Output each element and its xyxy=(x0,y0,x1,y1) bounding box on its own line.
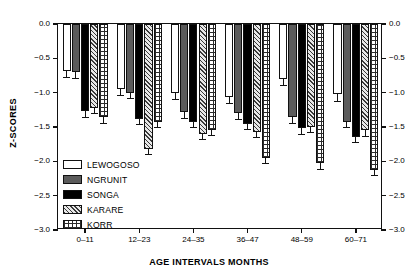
error-bar xyxy=(352,137,360,143)
error-bar xyxy=(343,122,351,128)
y-axis-tick-label: −1.5 xyxy=(34,122,50,131)
legend: LEWOGOSONGRUNITSONGAKARAREKORR xyxy=(63,157,140,232)
bar-karare xyxy=(307,24,315,127)
y-axis-tick-label: −0.5 xyxy=(34,53,50,62)
legend-item-karare: KARARE xyxy=(63,202,140,217)
y-axis-tick xyxy=(381,195,386,196)
x-axis-tick-label: 0–11 xyxy=(76,235,93,244)
error-bar xyxy=(262,158,270,164)
y-axis-tick xyxy=(53,58,58,59)
bar-lewogoso xyxy=(333,24,341,94)
error-bar xyxy=(81,111,89,118)
bar-songa xyxy=(135,24,143,119)
y-axis-tick-label: −2.5 xyxy=(34,191,50,200)
bar-ngrunit xyxy=(72,24,80,72)
bar-karare xyxy=(253,24,261,132)
y-axis-tick-label: −3.0 xyxy=(34,225,50,234)
error-bar xyxy=(189,122,197,128)
bar-korr xyxy=(208,24,216,130)
bar-ngrunit xyxy=(288,24,296,117)
bar-lewogoso xyxy=(225,24,233,97)
bar-lewogoso xyxy=(171,24,179,93)
bar-group xyxy=(329,24,383,228)
bar-songa xyxy=(81,24,89,111)
y-axis-tick-label: −0.5 xyxy=(389,53,405,62)
x-axis-tick xyxy=(355,228,356,233)
legend-label: KARARE xyxy=(87,205,124,215)
x-axis-tick-label: 48–59 xyxy=(291,235,313,244)
error-bar xyxy=(63,71,71,79)
error-bar xyxy=(361,130,369,136)
error-bar xyxy=(307,127,315,133)
y-axis-tick-label: −1.0 xyxy=(389,88,405,97)
error-bar xyxy=(279,79,287,86)
error-bar xyxy=(225,97,233,104)
bar-group xyxy=(221,24,275,228)
error-bar xyxy=(208,130,216,136)
y-axis-tick-label: 0.0 xyxy=(389,19,400,28)
y-axis-tick xyxy=(53,126,58,127)
bar-songa xyxy=(189,24,197,122)
legend-label: NGRUNIT xyxy=(87,175,128,185)
bar-korr xyxy=(370,24,378,170)
chart-figure: Z-SCORES 0.00.0−0.5−0.5−1.0−1.0−1.5−1.5−… xyxy=(0,0,418,280)
x-axis-tick-label: 24–35 xyxy=(182,235,204,244)
legend-swatch-ngrunit xyxy=(63,175,82,184)
legend-label: SONGA xyxy=(87,190,119,200)
bar-karare xyxy=(90,24,98,108)
bar-ngrunit xyxy=(343,24,351,122)
bar-karare xyxy=(199,24,207,134)
error-bar xyxy=(234,113,242,120)
legend-label: KORR xyxy=(87,220,113,230)
y-axis-tick-label: 0.0 xyxy=(39,19,50,28)
y-axis-tick xyxy=(381,23,386,24)
y-axis-tick xyxy=(381,161,386,162)
error-bar xyxy=(117,89,125,96)
error-bar xyxy=(288,117,296,124)
y-axis-tick xyxy=(381,58,386,59)
legend-item-songa: SONGA xyxy=(63,187,140,202)
bar-songa xyxy=(352,24,360,137)
x-axis-tick xyxy=(247,228,248,233)
bar-korr xyxy=(316,24,324,163)
bar-lewogoso xyxy=(279,24,287,79)
x-axis-tick-label: 36–47 xyxy=(236,235,258,244)
x-axis-tick-label: 60–71 xyxy=(345,235,367,244)
bar-korr xyxy=(262,24,270,158)
error-bar xyxy=(243,124,251,130)
error-bar xyxy=(316,163,324,169)
y-axis-title: Z-SCORES xyxy=(8,88,18,158)
x-axis-tick-label: 12–23 xyxy=(128,235,150,244)
bar-karare xyxy=(144,24,152,149)
legend-swatch-karare xyxy=(63,205,82,214)
error-bar xyxy=(180,112,188,119)
error-bar xyxy=(135,119,143,125)
y-axis-tick xyxy=(53,229,58,230)
y-axis-tick-label: −1.5 xyxy=(389,122,405,131)
y-axis-tick-label: −2.5 xyxy=(389,191,405,200)
bar-group xyxy=(275,24,329,228)
bar-songa xyxy=(298,24,306,128)
y-axis-tick xyxy=(53,23,58,24)
y-axis-tick xyxy=(381,92,386,93)
error-bar xyxy=(154,122,162,128)
y-axis-tick-label: −2.0 xyxy=(389,156,405,165)
error-bar xyxy=(253,132,261,138)
legend-swatch-korr xyxy=(63,220,82,229)
y-axis-tick-label: −1.0 xyxy=(34,88,50,97)
error-bar xyxy=(126,93,134,99)
legend-swatch-lewogoso xyxy=(63,160,82,169)
y-axis-tick xyxy=(53,195,58,196)
x-axis-tick xyxy=(301,228,302,233)
bar-karare xyxy=(361,24,369,130)
y-axis-tick xyxy=(381,126,386,127)
error-bar xyxy=(144,149,152,155)
bar-ngrunit xyxy=(234,24,242,113)
bar-korr xyxy=(99,24,107,117)
y-axis-tick xyxy=(381,229,386,230)
bar-lewogoso xyxy=(63,24,71,71)
error-bar xyxy=(171,93,179,100)
error-bar xyxy=(333,94,341,102)
error-bar xyxy=(298,128,306,134)
error-bar xyxy=(72,72,80,79)
